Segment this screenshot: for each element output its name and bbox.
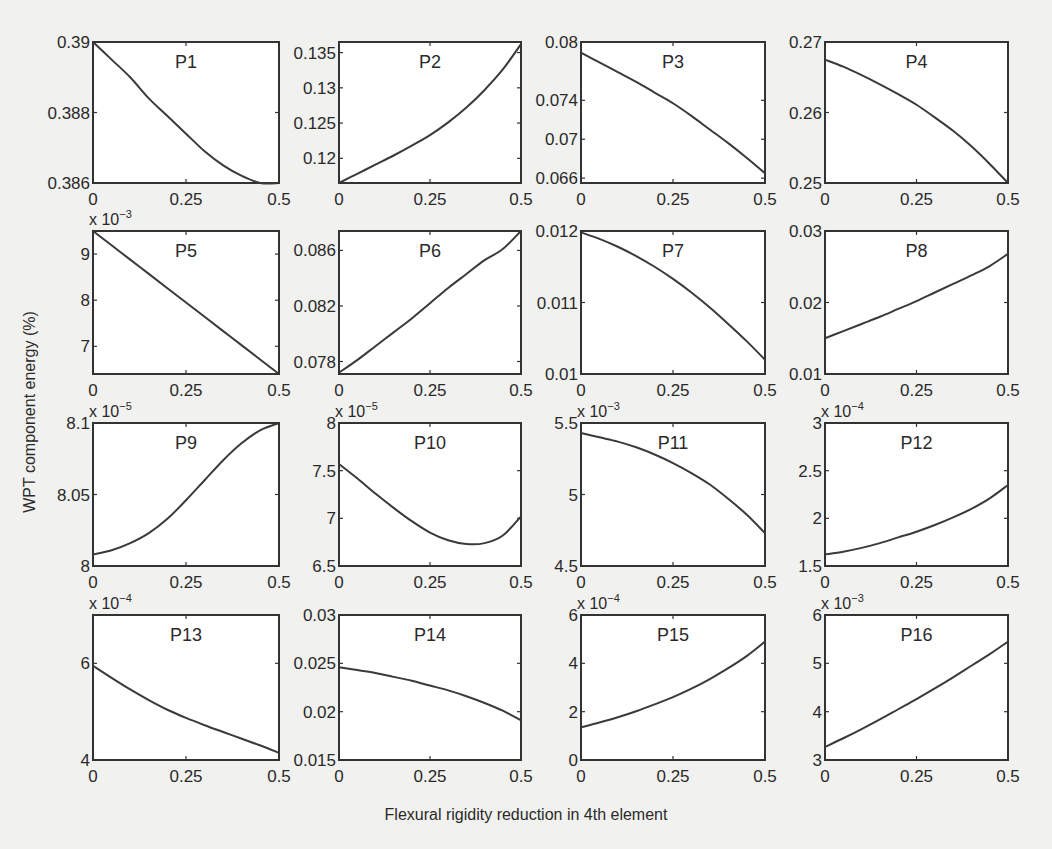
y-tick-label: 4 [81,751,90,770]
y-tick-label: 2 [569,703,578,722]
x-tick-label: 0.25 [413,190,446,209]
panel-title: P3 [662,52,684,72]
axis-exponent-label: x 10−3 [577,400,620,420]
x-tick-label: 0.5 [267,190,291,209]
subplot-p11: P1100.250.54.555.5x 10−3 [554,400,776,592]
x-tick-label: 0.5 [753,573,777,592]
x-tick-label: 0.25 [900,381,933,400]
y-tick-label: 0.27 [789,33,822,52]
panel-title: P11 [658,433,689,453]
y-tick-label: 0.082 [293,297,336,316]
panel-title: P14 [414,625,446,645]
y-tick-label: 0.13 [303,79,336,98]
panel-title: P8 [905,241,927,261]
panel-title: P12 [900,433,932,453]
x-tick-label: 0 [88,381,97,400]
y-tick-label: 0.02 [789,294,822,313]
x-tick-label: 0.25 [169,381,202,400]
x-tick-label: 0 [334,381,343,400]
axis-exponent-label: x 10−4 [577,592,620,612]
y-tick-label: 0.125 [293,114,336,133]
subplot-p2: P200.250.50.120.1250.130.135 [293,42,532,209]
y-tick-label: 6.5 [312,557,336,576]
panel-title: P4 [905,52,927,72]
y-tick-label: 8.1 [66,414,90,433]
y-tick-label: 7 [327,509,336,528]
subplot-p7: P700.250.50.010.0110.012 [535,222,776,400]
axis-exponent-label: x 10−4 [821,400,864,420]
axis-exponent-label: x 10−5 [335,400,378,420]
y-tick-label: 7.5 [312,462,336,481]
y-tick-label: 0.011 [537,294,578,313]
y-tick-label: 6 [81,654,90,673]
x-tick-label: 0.25 [656,573,689,592]
panel-title: P9 [175,433,197,453]
y-tick-label: 7 [81,337,90,356]
y-tick-label: 1.5 [798,557,822,576]
axis-exponent-label: x 10−3 [821,592,864,612]
panel-title: P15 [657,625,689,645]
panel-title: P6 [419,241,441,261]
x-tick-label: 0 [334,190,343,209]
y-tick-label: 0.01 [789,365,822,384]
panel-title: P13 [170,625,202,645]
y-tick-label: 0.03 [303,606,336,625]
subplot-p13: P1300.250.546x 10−4 [81,592,291,786]
y-tick-label: 0.07 [545,130,578,149]
y-tick-label: 9 [81,245,90,264]
x-tick-label: 0.25 [169,190,202,209]
y-tick-label: 0.01 [545,365,578,384]
x-tick-label: 0.25 [900,190,933,209]
panel-title: P2 [419,52,441,72]
y-tick-label: 3 [813,751,822,770]
subplot-p14: P1400.250.50.0150.020.0250.03 [293,606,532,786]
y-tick-label: 0.03 [789,222,822,241]
x-tick-label: 0.25 [169,573,202,592]
x-tick-label: 0.5 [753,767,777,786]
subplot-p8: P800.250.50.010.020.03 [789,222,1020,400]
x-tick-label: 0.5 [753,381,777,400]
x-tick-label: 0.25 [656,767,689,786]
axis-exponent-label: x 10−3 [89,208,132,228]
y-tick-label: 0.066 [535,169,578,188]
panel-title: P1 [175,52,197,72]
subplot-p9: P900.250.588.058.1x 10−5 [57,400,291,592]
x-tick-label: 0.5 [509,190,533,209]
y-tick-label: 4 [813,703,822,722]
x-tick-label: 0.5 [267,767,291,786]
y-tick-label: 2.5 [798,462,822,481]
y-tick-label: 5 [569,486,578,505]
subplot-p12: P1200.250.51.522.53x 10−4 [798,400,1019,592]
y-tick-label: 8 [81,291,90,310]
y-tick-label: 0.012 [535,222,578,241]
x-tick-label: 0.25 [656,190,689,209]
y-tick-label: 0.26 [789,104,822,123]
y-tick-label: 0.135 [293,44,336,63]
y-tick-label: 0.386 [47,174,90,193]
subplot-p4: P400.250.50.250.260.27 [789,33,1020,209]
x-tick-label: 0.5 [996,767,1020,786]
panel-title: P10 [414,433,446,453]
y-tick-label: 4 [569,654,578,673]
x-tick-label: 0.25 [656,381,689,400]
y-tick-label: 5 [813,654,822,673]
subplot-p10: P1000.250.56.577.58x 10−5 [312,400,532,592]
y-tick-label: 0.39 [57,33,90,52]
y-tick-label: 8.05 [57,486,90,505]
panel-title: P7 [662,241,684,261]
y-tick-label: 8 [81,557,90,576]
x-axis-label: Flexural rigidity reduction in 4th eleme… [0,806,1052,824]
x-tick-label: 0.5 [267,381,291,400]
y-tick-label: 4.5 [554,557,578,576]
y-tick-label: 5.5 [554,414,578,433]
panel-title: P16 [900,625,932,645]
x-tick-label: 0.25 [413,573,446,592]
y-tick-label: 0 [569,751,578,770]
subplot-grid: P100.250.50.3860.3880.39P200.250.50.120.… [0,0,1052,849]
y-tick-label: 0.388 [47,104,90,123]
x-tick-label: 0.5 [509,381,533,400]
x-tick-label: 0.25 [413,381,446,400]
y-tick-label: 0.025 [293,654,336,673]
axis-exponent-label: x 10−4 [89,592,132,612]
subplot-p3: P300.250.50.0660.070.0740.08 [535,33,776,209]
